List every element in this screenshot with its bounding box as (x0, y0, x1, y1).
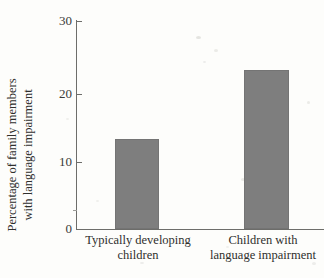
y-tick-label-0: 0 (66, 220, 73, 237)
y-tick-label-20: 20 (59, 85, 72, 102)
y-axis-title-line-2: with language impairment (20, 89, 36, 220)
bar-children-with-language-impairment (244, 70, 289, 229)
y-tick-10: 10 (76, 162, 82, 163)
y-tick-0: 0 (76, 229, 82, 230)
y-axis-title: Percentage of family members with langua… (0, 40, 40, 270)
x-axis-line (76, 229, 324, 230)
y-tick-20: 20 (76, 94, 82, 95)
scan-speckle (214, 49, 218, 52)
scan-speckle (66, 118, 69, 120)
y-axis-title-line-1: Percentage of family members (4, 78, 20, 231)
y-tick-label-10: 10 (59, 153, 72, 170)
x-axis-label-line-1: Typically developing (76, 233, 200, 248)
bar-chart: Percentage of family members with langua… (0, 0, 324, 278)
x-axis-label-line-1: Children with (202, 233, 324, 248)
scan-speckle (196, 36, 201, 39)
scan-speckle (307, 101, 310, 104)
y-tick-30: 30 (76, 21, 82, 22)
scan-speckle (203, 61, 206, 63)
y-axis-scan-mark (73, 210, 77, 211)
x-axis-label-line-2: children (76, 248, 200, 263)
x-axis-label-typically-developing-children: Typically developing children (76, 233, 200, 263)
x-axis-label-children-with-language-impairment: Children with language impairment (202, 233, 324, 263)
bar-typically-developing-children (115, 139, 159, 229)
y-axis-line (76, 20, 77, 230)
scan-speckle (96, 200, 99, 202)
y-tick-label-30: 30 (59, 12, 72, 29)
x-axis-label-line-2: language impairment (202, 248, 324, 263)
